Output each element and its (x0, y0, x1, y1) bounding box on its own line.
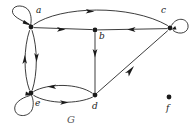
vertex-label-d: d (92, 102, 98, 111)
vertex-label-f: f (166, 104, 169, 113)
edge-b-to-d (93, 33, 98, 93)
vertex-e (29, 91, 34, 96)
edge-c-to-c-selfloop (172, 19, 189, 33)
vertex-d (93, 93, 98, 98)
vertex-f (167, 95, 172, 100)
vertex-label-a: a (36, 6, 41, 15)
vertex-a (29, 25, 34, 30)
vertex-label-e: e (35, 99, 40, 108)
edge-a-to-b (34, 27, 93, 32)
vertex-b (93, 28, 98, 33)
edge-a-to-e (32, 30, 39, 90)
vertex-label-c: c (161, 6, 166, 15)
edge-e-to-a (22, 30, 29, 90)
edge-d-to-e (33, 84, 92, 93)
directed-graph-figure: a b c d e f G (0, 0, 195, 133)
edge-c-to-b (97, 27, 167, 32)
graph-drawing-canvas (0, 0, 195, 133)
edge-a-to-c (34, 9, 168, 26)
vertex-label-b: b (99, 32, 105, 41)
graph-name-caption: G (67, 115, 75, 125)
edge-e-to-d (33, 95, 92, 105)
vertex-c (168, 26, 173, 31)
edge-d-to-c (97, 31, 168, 93)
edge-a-to-a-selfloop (12, 6, 31, 26)
